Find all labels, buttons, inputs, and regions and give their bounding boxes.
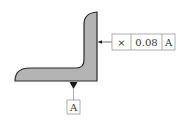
l-shaped-part: [15, 12, 97, 81]
datum-feature-symbol: A: [67, 82, 80, 114]
tolerance-value: 0.08: [135, 37, 157, 48]
datum-label: A: [69, 102, 78, 113]
leader-arrow: [98, 40, 113, 43]
feature-control-frame: × 0.08 A: [112, 34, 175, 50]
datum-reference: A: [164, 37, 173, 48]
datum-triangle-icon: [70, 82, 78, 89]
gdt-diagram: × 0.08 A A: [0, 0, 189, 127]
flatness-symbol-icon: ×: [117, 37, 125, 48]
